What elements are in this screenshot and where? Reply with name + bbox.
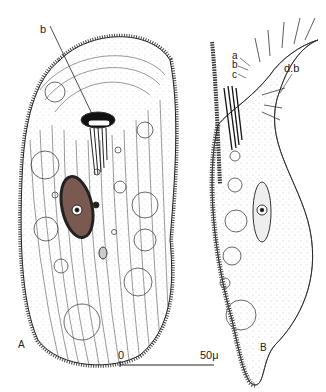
panel-b-label: B <box>260 343 267 353</box>
label-panel-b-db: d.b <box>284 63 299 74</box>
panel-a-label: A <box>18 340 25 350</box>
label-panel-b-c: c <box>232 70 237 80</box>
label-panel-a-b: b <box>40 24 46 35</box>
scale-bar <box>120 361 214 367</box>
ciliate-illustration <box>0 0 326 392</box>
scale-end-label: 50μ <box>200 350 219 361</box>
scale-start-label: 0 <box>118 350 124 361</box>
panel-a-organism <box>20 25 185 375</box>
panel-b-organism <box>212 18 318 385</box>
